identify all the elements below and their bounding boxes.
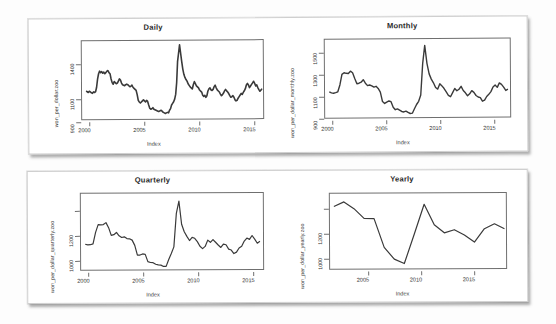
x-tick-label: 2015: [483, 125, 495, 131]
y-tick-label: 1000: [317, 258, 323, 270]
y-tick-mark: [319, 75, 324, 76]
x-tick-label: 2010: [410, 276, 422, 282]
chart-panel-monthly: Monthly won_per_dollar_monthly.zoo Index…: [278, 16, 528, 152]
series-line-quarterly: [81, 193, 263, 270]
chart-title-monthly: Monthly: [278, 20, 527, 31]
x-tick-label: 2015: [242, 277, 254, 283]
x-tick-mark: [199, 121, 200, 125]
y-tick-label: 900: [69, 124, 75, 133]
chart-title-yearly: Yearly: [277, 174, 527, 184]
x-tick-label: 2010: [429, 125, 441, 131]
y-tick-mark: [319, 97, 324, 98]
plot-frame-daily: [81, 39, 264, 120]
bottom-sheet: Quarterly won_per_dollar_quarterly.zoo I…: [27, 169, 529, 304]
y-tick-label: 1200: [68, 235, 74, 247]
y-tick-label: 1500: [312, 53, 318, 65]
chart-panel-quarterly: Quarterly won_per_dollar_quarterly.zoo I…: [28, 171, 278, 303]
x-axis-label-yearly: Index: [278, 290, 528, 297]
x-tick-label: 2000: [77, 278, 89, 284]
series-line-yearly: [329, 193, 506, 269]
y-axis-label-monthly: won_per_dollar_monthly.zoo: [289, 68, 295, 138]
y-tick-label: 1200: [316, 233, 322, 245]
y-tick-mark: [75, 236, 80, 237]
x-tick-mark: [198, 272, 199, 276]
y-axis-label-daily: won_per_dollar.zoo: [53, 80, 59, 128]
y-tick-mark: [75, 211, 80, 212]
x-axis-label-daily: Index: [29, 140, 278, 148]
x-tick-label: 2005: [133, 127, 145, 133]
x-tick-mark: [386, 120, 387, 124]
x-tick-label: 2005: [375, 125, 387, 131]
x-tick-mark: [144, 122, 145, 126]
y-tick-label: 1100: [69, 99, 75, 110]
x-tick-mark: [253, 272, 254, 276]
chart-panel-daily: Daily won_per_dollar.zoo Index 900 1100 …: [29, 18, 279, 154]
x-tick-mark: [89, 122, 90, 126]
series-line-monthly: [325, 39, 510, 118]
y-tick-mark: [76, 99, 81, 100]
x-tick-label: 2000: [78, 127, 90, 133]
y-tick-label: 1400: [69, 63, 75, 75]
y-tick-mark: [76, 122, 81, 123]
plot-monthly: Monthly won_per_dollar_monthly.zoo Index…: [278, 16, 528, 152]
x-tick-mark: [88, 273, 89, 277]
series-line-daily: [82, 40, 263, 119]
y-tick-label: 1300: [312, 75, 318, 87]
plot-frame-yearly: [328, 192, 507, 270]
x-tick-mark: [494, 120, 495, 124]
x-tick-label: 2005: [357, 277, 369, 283]
x-tick-mark: [421, 271, 422, 275]
x-axis-label-monthly: Index: [278, 138, 527, 146]
x-tick-label: 2015: [243, 126, 255, 132]
plot-daily: Daily won_per_dollar.zoo Index 900 1100 …: [29, 18, 279, 154]
x-tick-mark: [368, 272, 369, 276]
plot-yearly: Yearly won_per_dollar_yearly.zoo Index 1…: [277, 170, 527, 302]
x-tick-mark: [254, 121, 255, 125]
chart-title-daily: Daily: [29, 22, 278, 33]
plot-frame-quarterly: [80, 192, 264, 271]
y-tick-label: 900: [312, 121, 318, 130]
x-tick-mark: [474, 271, 475, 275]
x-tick-mark: [332, 121, 333, 125]
chart-panel-yearly: Yearly won_per_dollar_yearly.zoo Index 1…: [277, 170, 527, 302]
plot-quarterly: Quarterly won_per_dollar_quarterly.zoo I…: [28, 171, 278, 303]
x-tick-label: 2010: [188, 126, 200, 132]
x-tick-mark: [440, 120, 441, 124]
x-axis-label-quarterly: Index: [28, 291, 278, 298]
x-tick-label: 2010: [187, 277, 199, 283]
x-tick-label: 2000: [321, 126, 333, 132]
top-sheet: Daily won_per_dollar.zoo Index 900 1100 …: [28, 15, 529, 154]
chart-title-quarterly: Quarterly: [28, 175, 278, 185]
y-tick-mark: [319, 53, 324, 54]
y-tick-mark: [323, 209, 328, 210]
y-tick-mark: [76, 64, 81, 65]
y-tick-mark: [324, 259, 329, 260]
y-tick-label: 1100: [312, 97, 318, 108]
y-axis-label-yearly: won_per_dollar_yearly.zoo: [298, 223, 304, 288]
x-tick-label: 2015: [463, 276, 475, 282]
plot-frame-monthly: [324, 38, 511, 119]
x-tick-label: 2005: [132, 278, 144, 284]
y-tick-mark: [323, 234, 328, 235]
x-tick-mark: [143, 273, 144, 277]
y-tick-mark: [319, 119, 324, 120]
y-axis-label-quarterly: won_per_dollar_quarterly.zoo: [49, 221, 55, 293]
y-tick-label: 1000: [68, 260, 74, 272]
y-tick-mark: [75, 261, 80, 262]
